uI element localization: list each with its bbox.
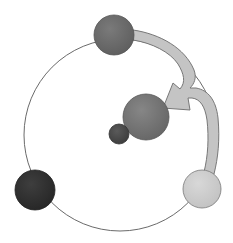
center-small-node bbox=[109, 124, 129, 144]
top-node bbox=[94, 15, 134, 55]
bottom-left-node bbox=[15, 170, 55, 210]
bottom-right-node bbox=[183, 170, 221, 208]
diagram-canvas bbox=[0, 0, 233, 243]
orbit-diagram bbox=[0, 0, 233, 243]
center-large-node bbox=[123, 94, 169, 140]
